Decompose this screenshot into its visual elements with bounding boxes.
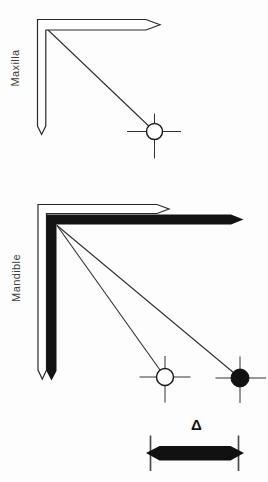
mandible-landmark-line-filled bbox=[57, 226, 240, 379]
maxilla-landmark-circle-open bbox=[147, 124, 163, 140]
mandible-landmark-circle-open bbox=[157, 369, 174, 386]
delta-dimension-group bbox=[146, 436, 244, 472]
maxilla-landmark-line bbox=[47, 29, 155, 132]
maxilla-target-crosshair-icon bbox=[127, 114, 181, 159]
mandible-target-crosshair-open-icon bbox=[140, 356, 191, 403]
figure-canvas: Maxilla Mandible Δ bbox=[0, 0, 268, 482]
dimension-double-arrow-bar bbox=[146, 446, 244, 461]
diagram-svg bbox=[0, 0, 268, 482]
maxilla-panel bbox=[38, 20, 182, 159]
delta-symbol: Δ bbox=[191, 415, 202, 432]
maxilla-label: Maxilla bbox=[9, 49, 21, 86]
mandible-panel bbox=[38, 205, 266, 404]
mandible-landmark-line-open bbox=[57, 226, 165, 378]
mandible-landmark-circle-filled bbox=[231, 369, 249, 387]
mandible-bone-outline-shape bbox=[38, 205, 169, 380]
mandible-label: Mandible bbox=[10, 254, 22, 302]
